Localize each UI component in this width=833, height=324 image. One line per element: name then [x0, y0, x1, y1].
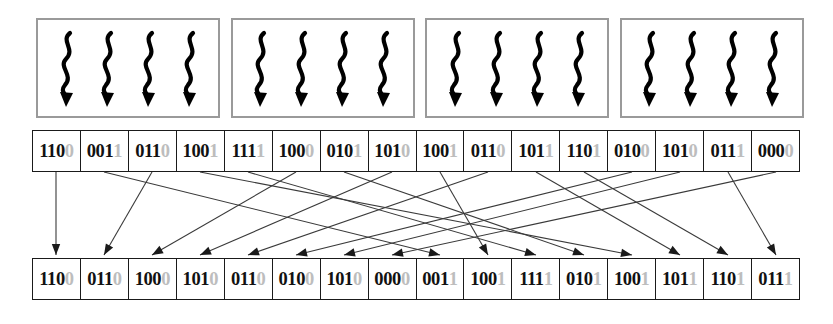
input-bit-cell: 0111: [704, 131, 752, 171]
squiggly-down-arrow-icon: [484, 29, 510, 107]
output-bit-cell: 0011: [417, 259, 465, 299]
input-bit-cell: 0000: [752, 131, 799, 171]
trailing-bit: 0: [209, 270, 218, 289]
channel-box: [620, 18, 804, 118]
trailing-bit: 0: [305, 142, 314, 161]
trailing-bit: 0: [113, 270, 122, 289]
permutation-arrow-line: [200, 172, 632, 255]
permutation-arrow-line: [392, 172, 776, 255]
squiggly-down-arrow-icon: [719, 29, 745, 107]
permutation-arrow-head: [104, 243, 113, 255]
permutation-arrow-line: [248, 172, 488, 255]
permutation-arrow-line: [584, 172, 728, 255]
trailing-bit: 1: [784, 270, 793, 289]
trailing-bit: 0: [496, 142, 505, 161]
trailing-bit: 1: [736, 142, 745, 161]
squiggly-down-arrow-icon: [443, 29, 469, 107]
trailing-bit: 0: [161, 142, 170, 161]
input-bit-cell: 1001: [177, 131, 225, 171]
output-bit-cell: 1001: [464, 259, 512, 299]
trailing-bit: 1: [449, 270, 458, 289]
input-bit-cell: 1000: [273, 131, 321, 171]
permutation-arrow-head: [428, 248, 440, 256]
permutation-arrow-head: [200, 247, 212, 255]
channel-box-row: [36, 18, 804, 118]
squiggly-down-arrow-icon: [54, 29, 80, 107]
output-bit-cell: 1001: [608, 259, 656, 299]
trailing-bit: 0: [689, 142, 698, 161]
input-bit-cell: 1101: [560, 131, 608, 171]
permutation-arrow-head: [344, 248, 356, 256]
squiggly-down-arrow-icon: [525, 29, 551, 107]
permutation-arrow-head: [572, 247, 584, 255]
trailing-bit: 1: [592, 142, 601, 161]
trailing-bit: 0: [257, 270, 266, 289]
output-bit-cell: 1011: [656, 259, 704, 299]
trailing-bit: 1: [641, 270, 650, 289]
permutation-arrow-line: [728, 172, 776, 255]
permutation-arrow-line: [104, 172, 152, 255]
channel-box: [36, 18, 220, 118]
squiggly-down-arrow-icon: [136, 29, 162, 107]
trailing-bit: 1: [497, 270, 506, 289]
output-bit-cell: 1010: [321, 259, 369, 299]
trailing-bit: 1: [256, 142, 265, 161]
input-bit-cell: 0011: [81, 131, 129, 171]
squiggly-down-arrow-icon: [248, 29, 274, 107]
trailing-bit: 1: [736, 270, 745, 289]
squiggly-down-arrow-icon: [289, 29, 315, 107]
permutation-arrow-head: [479, 243, 488, 255]
output-bit-cell: 1111: [512, 259, 560, 299]
permutation-arrow-line: [104, 172, 440, 255]
diagram-canvas: 1100001101101001111110000101101010010110…: [0, 0, 833, 324]
output-bit-cell: 1010: [177, 259, 225, 299]
output-bit-row: 1100011010001010011001001010000000111001…: [32, 258, 800, 300]
trailing-bit: 1: [593, 270, 602, 289]
squiggly-down-arrow-icon: [678, 29, 704, 107]
permutation-arrow-line: [344, 172, 680, 255]
input-bit-cell: 0101: [321, 131, 369, 171]
output-bit-cell: 0110: [81, 259, 129, 299]
input-bit-cell: 1111: [225, 131, 273, 171]
permutation-arrow-head: [767, 243, 776, 255]
permutation-arrow-head: [296, 248, 308, 256]
trailing-bit: 0: [784, 142, 793, 161]
trailing-bit: 1: [113, 142, 122, 161]
input-bit-cell: 1010: [656, 131, 704, 171]
permutation-arrow-head: [524, 248, 536, 256]
output-bit-cell: 0100: [273, 259, 321, 299]
permutation-arrow-head: [152, 246, 164, 255]
input-bit-cell: 0110: [464, 131, 512, 171]
trailing-bit: 0: [353, 270, 362, 289]
output-bit-cell: 0000: [369, 259, 417, 299]
squiggly-down-arrow-icon: [330, 29, 356, 107]
permutation-arrow-head: [52, 244, 60, 255]
trailing-bit: 1: [544, 270, 553, 289]
input-bit-cell: 0100: [608, 131, 656, 171]
trailing-bit: 0: [65, 270, 74, 289]
output-bit-cell: 1000: [129, 259, 177, 299]
permutation-arrow-line: [200, 172, 392, 255]
squiggly-down-arrow-icon: [95, 29, 121, 107]
output-bit-cell: 0110: [225, 259, 273, 299]
permutation-arrow-head: [248, 247, 260, 255]
input-bit-cell: 1011: [512, 131, 560, 171]
trailing-bit: 1: [449, 142, 458, 161]
input-bit-cell: 0110: [129, 131, 177, 171]
permutation-arrow-line: [536, 172, 680, 255]
trailing-bit: 0: [401, 142, 410, 161]
output-bit-cell: 0101: [560, 259, 608, 299]
input-bit-cell: 1010: [369, 131, 417, 171]
channel-box: [231, 18, 415, 118]
channel-box: [425, 18, 609, 118]
trailing-bit: 1: [209, 142, 218, 161]
trailing-bit: 1: [353, 142, 362, 161]
squiggly-down-arrow-icon: [566, 29, 592, 107]
trailing-bit: 0: [305, 270, 314, 289]
output-bit-cell: 1100: [33, 259, 81, 299]
permutation-arrow-line: [344, 172, 584, 255]
input-bit-cell: 1100: [33, 131, 81, 171]
squiggly-down-arrow-icon: [371, 29, 397, 107]
trailing-bit: 1: [689, 270, 698, 289]
permutation-arrow-head: [620, 249, 632, 257]
